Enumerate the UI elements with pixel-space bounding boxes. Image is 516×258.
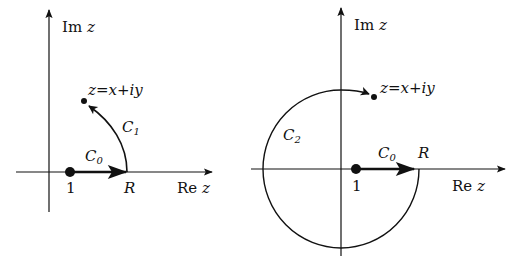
right-target-point (371, 94, 377, 100)
left-imag-axis-label: Im z (62, 18, 95, 36)
contour-diagrams: Im z Re z 1 R C0 z=x+iy C1 Im z Re z 1 R… (0, 0, 516, 258)
right-imag-axis-label: Im z (354, 16, 387, 34)
left-target-point (81, 98, 87, 104)
left-start-point (65, 167, 75, 177)
right-radius-label: R (417, 144, 429, 162)
right-start-label: 1 (352, 177, 362, 195)
right-c2-label: C2 (283, 126, 301, 145)
left-point-label: z=x+iy (87, 81, 143, 99)
left-c1-label: C1 (122, 118, 140, 137)
left-real-axis-label: Re z (177, 179, 210, 197)
right-real-axis-label: Re z (452, 177, 485, 195)
right-point-label: z=x+iy (379, 79, 435, 97)
right-start-point (351, 164, 361, 174)
left-start-label: 1 (66, 179, 76, 197)
right-c0-label: C0 (378, 144, 396, 163)
left-diagram: Im z Re z 1 R C0 z=x+iy C1 (16, 10, 212, 212)
left-radius-label: R (123, 179, 135, 197)
right-diagram: Im z Re z 1 R C0 z=x+iy C2 (251, 8, 505, 256)
left-c0-label: C0 (85, 147, 103, 166)
